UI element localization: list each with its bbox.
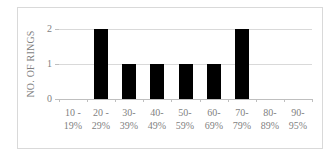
y-tick-label-1: 1 [44, 59, 52, 69]
x-tick [59, 99, 60, 102]
x-tick [312, 99, 313, 102]
x-label-line-bottom: 39% [115, 119, 143, 132]
x-label-line-top: 60- [200, 106, 228, 119]
x-tick [284, 99, 285, 102]
x-label-line-bottom: 29% [87, 119, 115, 132]
x-label-line-top: 10 - [59, 106, 87, 119]
x-tick [256, 99, 257, 102]
x-category-label: 30-39% [115, 106, 143, 132]
bar [235, 29, 249, 99]
y-axis-title: NO. OF RINGS [25, 30, 36, 97]
bar [94, 29, 108, 99]
x-label-line-top: 80- [256, 106, 284, 119]
x-category-label: 70-79% [228, 106, 256, 132]
x-tick [115, 99, 116, 102]
x-label-line-bottom: 95% [284, 119, 312, 132]
x-label-line-top: 50- [171, 106, 199, 119]
x-label-line-top: 30- [115, 106, 143, 119]
bar [179, 64, 193, 99]
x-category-label: 90-95% [284, 106, 312, 132]
x-label-line-top: 90- [284, 106, 312, 119]
x-label-line-bottom: 19% [59, 119, 87, 132]
x-category-label: 50-59% [171, 106, 199, 132]
y-tick-label-2: 2 [44, 24, 52, 34]
x-axis [59, 99, 312, 100]
y-tick-label-0: 0 [44, 94, 52, 104]
x-tick [143, 99, 144, 102]
x-label-line-top: 70- [228, 106, 256, 119]
x-label-line-top: 40- [143, 106, 171, 119]
x-label-line-bottom: 49% [143, 119, 171, 132]
bar [150, 64, 164, 99]
x-tick [171, 99, 172, 102]
x-tick [87, 99, 88, 102]
x-category-label: 10 -19% [59, 106, 87, 132]
x-category-label: 60-69% [200, 106, 228, 132]
x-label-line-bottom: 69% [200, 119, 228, 132]
x-label-line-bottom: 89% [256, 119, 284, 132]
x-label-line-bottom: 59% [171, 119, 199, 132]
x-category-label: 20 -29% [87, 106, 115, 132]
x-label-line-top: 20 - [87, 106, 115, 119]
x-category-label: 40-49% [143, 106, 171, 132]
bar [122, 64, 136, 99]
bar [207, 64, 221, 99]
x-label-line-bottom: 79% [228, 119, 256, 132]
x-category-label: 80-89% [256, 106, 284, 132]
x-tick [200, 99, 201, 102]
x-tick [228, 99, 229, 102]
